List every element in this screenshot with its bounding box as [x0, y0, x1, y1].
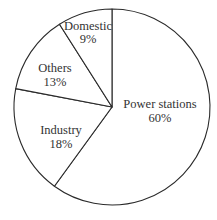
slice-category: Industry — [40, 123, 82, 137]
slice-percent: 13% — [44, 75, 67, 89]
slice-percent: 18% — [50, 137, 73, 151]
slice-category: Domestic — [64, 19, 112, 33]
pie-chart: Power stations60%Industry18%Others13%Dom… — [0, 0, 217, 220]
slice-category: Power stations — [123, 97, 196, 111]
slice-percent: 60% — [149, 111, 172, 125]
slice-category: Others — [38, 61, 71, 75]
slice-percent: 9% — [80, 32, 97, 46]
